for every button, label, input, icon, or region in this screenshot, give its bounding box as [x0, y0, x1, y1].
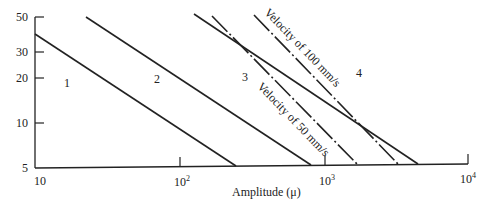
region-label-1: 1 [64, 77, 70, 89]
chart-plot [0, 0, 489, 205]
region-label-3: 3 [242, 71, 248, 83]
x-tick-1000: 103 [319, 172, 335, 187]
x-tick-10: 10 [34, 175, 46, 187]
y-tick-5: 5 [2, 162, 28, 174]
region-label-4: 4 [356, 67, 362, 79]
x-axis-label: Amplitude (μ) [232, 186, 301, 198]
region-label-2: 2 [154, 73, 160, 85]
y-tick-20: 20 [2, 72, 28, 84]
x-axis [35, 164, 468, 168]
y-tick-30: 30 [2, 46, 28, 58]
y-tick-50: 50 [2, 11, 28, 23]
y-tick-10: 10 [2, 117, 28, 129]
series-line-1 [35, 34, 236, 166]
x-tick-10000: 104 [460, 170, 476, 185]
x-tick-100: 102 [174, 173, 190, 188]
